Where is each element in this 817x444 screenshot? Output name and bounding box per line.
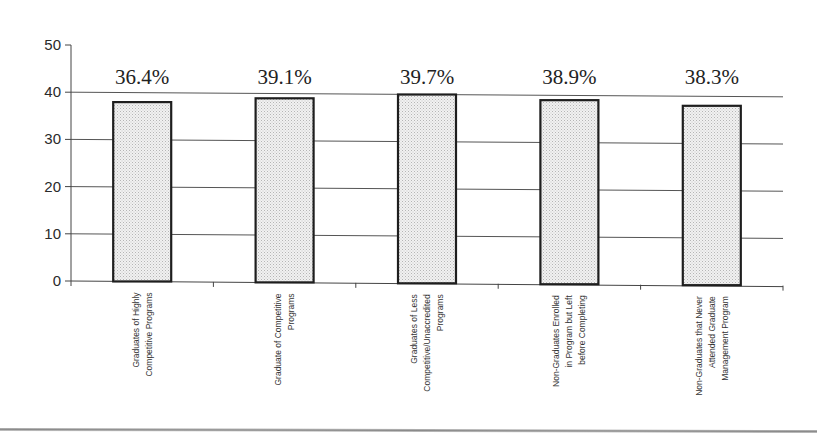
y-tick-label: 40: [44, 83, 61, 100]
category-labels: Graduates of HighlyCompetitive ProgramsG…: [131, 292, 730, 396]
bars: [113, 95, 741, 286]
svg-text:Graduates of Highly: Graduates of Highly: [131, 292, 141, 368]
y-tick-label: 50: [44, 36, 61, 53]
y-tick-label: 10: [44, 225, 61, 242]
svg-text:Management Program: Management Program: [720, 296, 730, 381]
bar: [540, 100, 598, 284]
svg-text:Programs: Programs: [435, 294, 445, 331]
bar-value-label: 39.1%: [257, 65, 311, 89]
svg-text:Programs: Programs: [286, 293, 296, 330]
bar-value-label: 36.4%: [115, 65, 169, 89]
svg-text:Graduates of Less: Graduates of Less: [409, 294, 419, 363]
bar: [113, 102, 171, 281]
svg-text:Graduate of Competitive: Graduate of Competitive: [273, 293, 283, 385]
bar-value-label: 38.3%: [685, 65, 739, 89]
bar-value-label: 38.9%: [542, 65, 596, 89]
y-tick-label: 0: [53, 272, 61, 289]
data-labels: 36.4%39.1%39.7%38.9%38.3%: [115, 65, 739, 89]
category-label: Non-Graduates that NeverAttended Graduat…: [694, 296, 730, 396]
svg-text:Competitive/Unaccredited: Competitive/Unaccredited: [422, 294, 432, 392]
svg-text:before Completing: before Completing: [577, 295, 587, 365]
bar-value-label: 39.7%: [400, 65, 454, 89]
bar-chart: 01020304050 36.4%39.1%39.7%38.9%38.3% Gr…: [0, 0, 817, 444]
svg-text:Attended Graduate: Attended Graduate: [707, 296, 717, 368]
bar: [398, 95, 456, 284]
category-label: Graduates of HighlyCompetitive Programs: [131, 292, 154, 377]
category-label: Graduates of LessCompetitive/Unaccredite…: [409, 294, 445, 392]
svg-text:Non-Graduates Enrolled: Non-Graduates Enrolled: [551, 295, 561, 387]
svg-text:Non-Graduates that Never: Non-Graduates that Never: [694, 296, 704, 396]
category-label: Graduate of CompetitivePrograms: [273, 293, 296, 385]
bar: [256, 98, 314, 282]
category-label: Non-Graduates Enrolledin Program but Lef…: [551, 295, 587, 387]
y-tick-label: 30: [44, 130, 61, 147]
bar: [683, 106, 741, 285]
y-axis: 01020304050: [44, 36, 71, 289]
svg-text:Competitive Programs: Competitive Programs: [144, 292, 154, 376]
svg-text:in Program but Left: in Program but Left: [564, 295, 574, 368]
y-tick-label: 20: [44, 178, 61, 195]
